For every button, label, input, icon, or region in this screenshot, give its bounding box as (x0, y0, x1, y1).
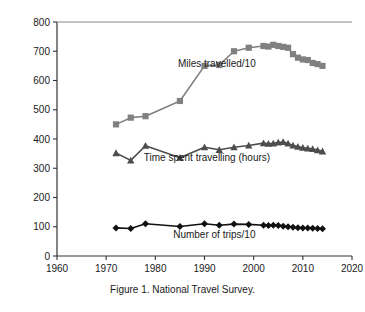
x-tick-label: 2010 (292, 263, 315, 274)
y-tick-label: 700 (33, 46, 50, 57)
travel-survey-line-chart: 0100200300400500600700800196019701980199… (0, 0, 365, 282)
series-label-2: Time spent travelling (hours) (144, 152, 270, 163)
series-1 (113, 42, 326, 128)
y-tick-label: 800 (33, 17, 50, 28)
data-point-marker (246, 45, 252, 51)
series-layer (112, 42, 326, 233)
data-point-marker (142, 220, 149, 227)
figure-container: 0100200300400500600700800196019701980199… (0, 0, 365, 312)
data-point-marker (113, 121, 119, 127)
data-point-marker (128, 115, 134, 121)
x-tick-label: 1990 (193, 263, 216, 274)
x-tick-label: 1960 (46, 263, 69, 274)
data-point-marker (285, 45, 291, 51)
data-point-marker (142, 113, 148, 119)
y-tick-label: 600 (33, 75, 50, 86)
data-point-marker (201, 220, 208, 227)
y-tick-label: 100 (33, 221, 50, 232)
chart-plot-area: 0100200300400500600700800196019701980199… (0, 0, 365, 282)
x-tick-label: 1980 (144, 263, 167, 274)
data-point-marker (231, 221, 238, 228)
x-tick-label: 2020 (341, 263, 364, 274)
data-point-marker (177, 98, 183, 104)
y-tick-label: 400 (33, 134, 50, 145)
y-tick-label: 300 (33, 163, 50, 174)
data-point-marker (245, 221, 252, 228)
data-point-marker (319, 63, 325, 69)
x-tick-label: 1970 (95, 263, 118, 274)
data-point-marker (319, 225, 326, 232)
data-point-marker (127, 225, 134, 232)
figure-caption: Figure 1. National Travel Survey. (0, 284, 365, 295)
data-point-marker (113, 224, 120, 231)
y-tick-label: 0 (44, 251, 50, 262)
series-label-3: Number of trips/10 (173, 229, 256, 240)
y-tick-label: 500 (33, 104, 50, 115)
data-point-marker (231, 48, 237, 54)
data-point-marker (142, 142, 149, 149)
y-tick-label: 200 (33, 192, 50, 203)
data-point-marker (216, 222, 223, 229)
data-point-marker (112, 149, 119, 156)
series-label-1: Miles travelled/10 (178, 58, 256, 69)
x-tick-label: 2000 (243, 263, 266, 274)
